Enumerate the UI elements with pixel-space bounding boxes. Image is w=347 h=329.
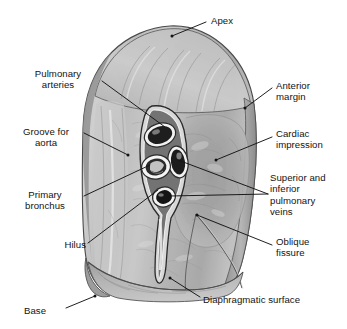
label-base: Base: [24, 305, 64, 316]
lung-illustration: [0, 0, 347, 329]
label-oblique-fissure: Oblique fissure: [276, 236, 336, 259]
lung-anatomy-figure: Apex Pulmonary arteries Groove for aorta…: [0, 0, 347, 329]
label-apex: Apex: [211, 15, 233, 26]
label-hilus: Hilus: [42, 239, 86, 250]
label-cardiac-impression: Cardiac impression: [276, 128, 344, 151]
label-primary-bronchus: Primary bronchus: [8, 189, 82, 212]
apex-dome: [95, 29, 251, 113]
label-pulmonary-veins: Superior and inferior pulmonary veins: [270, 172, 346, 218]
label-groove-for-aorta: Groove for aorta: [10, 126, 82, 149]
pulmonary-ligament-tail: [160, 219, 161, 270]
label-anterior-margin: Anterior margin: [276, 80, 340, 103]
label-diaphragmatic-surface: Diaphragmatic surface: [203, 294, 333, 305]
groove-for-aorta-band: [93, 101, 128, 292]
leader-base: [66, 296, 95, 308]
label-pulmonary-arteries: Pulmonary arteries: [16, 68, 100, 91]
